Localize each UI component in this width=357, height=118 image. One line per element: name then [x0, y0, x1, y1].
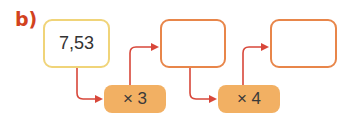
- operation-multiply-4: × 4: [218, 85, 280, 113]
- answer-box-2[interactable]: [270, 19, 337, 68]
- answer-box-1[interactable]: [160, 19, 226, 68]
- start-value-box: 7,53: [43, 19, 110, 68]
- arrow-op1-to-box2: [130, 47, 157, 85]
- arrow-box1-to-op1: [77, 68, 101, 99]
- arrow-op2-to-box3: [243, 47, 267, 85]
- operation-label-2: × 4: [237, 89, 261, 109]
- operation-label-1: × 3: [123, 89, 147, 109]
- arrow-box2-to-op2: [190, 68, 215, 99]
- operation-multiply-3: × 3: [104, 85, 166, 113]
- start-value: 7,53: [59, 33, 94, 54]
